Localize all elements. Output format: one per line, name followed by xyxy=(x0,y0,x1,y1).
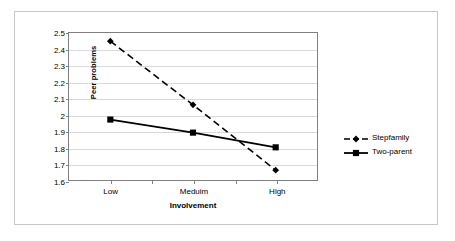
y-axis-tick-label: 2 xyxy=(61,111,65,120)
y-axis-tick-label: 2.5 xyxy=(54,29,65,38)
diamond-marker-icon xyxy=(272,167,279,174)
y-axis-tick-mark xyxy=(66,182,69,183)
x-axis-tick-mark xyxy=(111,180,112,184)
x-axis-tick-mark xyxy=(194,180,195,184)
y-axis-tick-label: 1.9 xyxy=(54,128,65,137)
legend-item: Stepfamily xyxy=(343,130,433,144)
legend-label: Two-parent xyxy=(372,147,412,156)
legend-key xyxy=(343,145,369,157)
y-axis-tick-label: 2.3 xyxy=(54,62,65,71)
x-axis-tick-mark xyxy=(277,180,278,184)
y-axis-tick-label: 1.6 xyxy=(54,178,65,187)
x-axis-title: Involvement xyxy=(69,201,317,210)
legend-item: Two-parent xyxy=(343,144,433,158)
y-axis-tick-label: 2.1 xyxy=(54,95,65,104)
x-axis-tick-label: Low xyxy=(103,187,118,196)
x-axis-tick-label: High xyxy=(269,187,285,196)
y-axis-tick-label: 1.7 xyxy=(54,161,65,170)
chart-legend: StepfamilyTwo-parent xyxy=(343,130,433,158)
square-marker-icon xyxy=(273,144,279,150)
x-axis-tick-label: Meduim xyxy=(180,187,208,196)
square-marker-icon xyxy=(353,150,359,156)
y-axis-title: Peer problems xyxy=(89,18,98,128)
plot-area: 2.52.42.32.22.121.91.81.71.6 LowMeduimHi… xyxy=(68,32,318,181)
y-axis-tick-label: 1.8 xyxy=(54,144,65,153)
x-axis-category-divider xyxy=(236,180,237,184)
diamond-marker-icon xyxy=(353,136,360,143)
chart-container: 2.52.42.32.22.121.91.81.71.6 LowMeduimHi… xyxy=(14,11,438,225)
square-marker-icon xyxy=(190,130,196,136)
square-marker-icon xyxy=(107,117,113,123)
legend-label: Stepfamily xyxy=(372,133,409,142)
series-plot xyxy=(69,33,317,180)
legend-key xyxy=(343,131,369,143)
y-axis-tick-label: 2.4 xyxy=(54,45,65,54)
y-axis-tick-label: 2.2 xyxy=(54,78,65,87)
x-axis-category-divider xyxy=(152,180,153,184)
